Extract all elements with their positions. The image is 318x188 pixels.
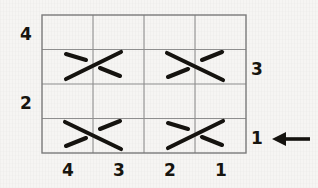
arrow-head [272, 132, 286, 146]
braid-diagram: 4 2 3 1 4 3 2 1 [0, 0, 318, 188]
under-strand-segment-b [100, 68, 120, 76]
left-arrow-icon [272, 132, 310, 146]
bottom-label-column-3: 2 [164, 160, 176, 180]
under-strand-segment-b [202, 52, 222, 60]
under-strand-segment-a [66, 138, 86, 146]
left-label-row-1: 4 [20, 24, 32, 44]
left-label-row-3: 2 [20, 93, 32, 113]
under-strand-segment-a [168, 123, 188, 129]
under-strand-segment-b [100, 121, 120, 129]
under-strand-segment-a [168, 69, 188, 77]
under-strand-segment-b [202, 137, 222, 145]
bottom-label-column-4: 1 [215, 160, 227, 180]
right-label-row-2: 3 [251, 59, 263, 79]
bottom-label-column-1: 4 [62, 160, 74, 180]
grid [42, 15, 246, 153]
bottom-label-column-2: 3 [113, 160, 125, 180]
right-label-row-4: 1 [251, 128, 263, 148]
under-strand-segment-a [66, 54, 86, 60]
